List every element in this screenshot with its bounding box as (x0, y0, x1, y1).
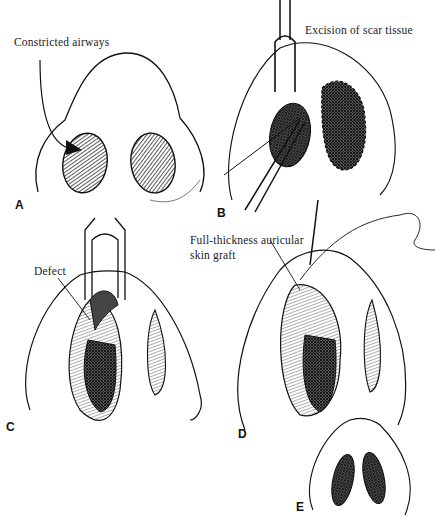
panel-label-b: B (217, 206, 226, 220)
surgical-illustration (0, 0, 446, 524)
caption-excision-of-scar-tissue: Excision of scar tissue (305, 24, 413, 36)
panel-label-e: E (296, 500, 304, 514)
panel-label-a: A (15, 198, 24, 212)
caption-constricted-airways: Constricted airways (14, 36, 109, 48)
caption-graft-line2: skin graft (190, 249, 236, 261)
panel-a-drawing (36, 53, 204, 202)
panel-label-d: D (238, 427, 247, 441)
panel-e-drawing (309, 418, 410, 515)
panel-label-c: C (6, 420, 15, 434)
caption-graft-line1: Full-thickness auricular (190, 234, 304, 246)
caption-defect: Defect (34, 265, 66, 277)
panel-c-drawing (26, 218, 202, 420)
